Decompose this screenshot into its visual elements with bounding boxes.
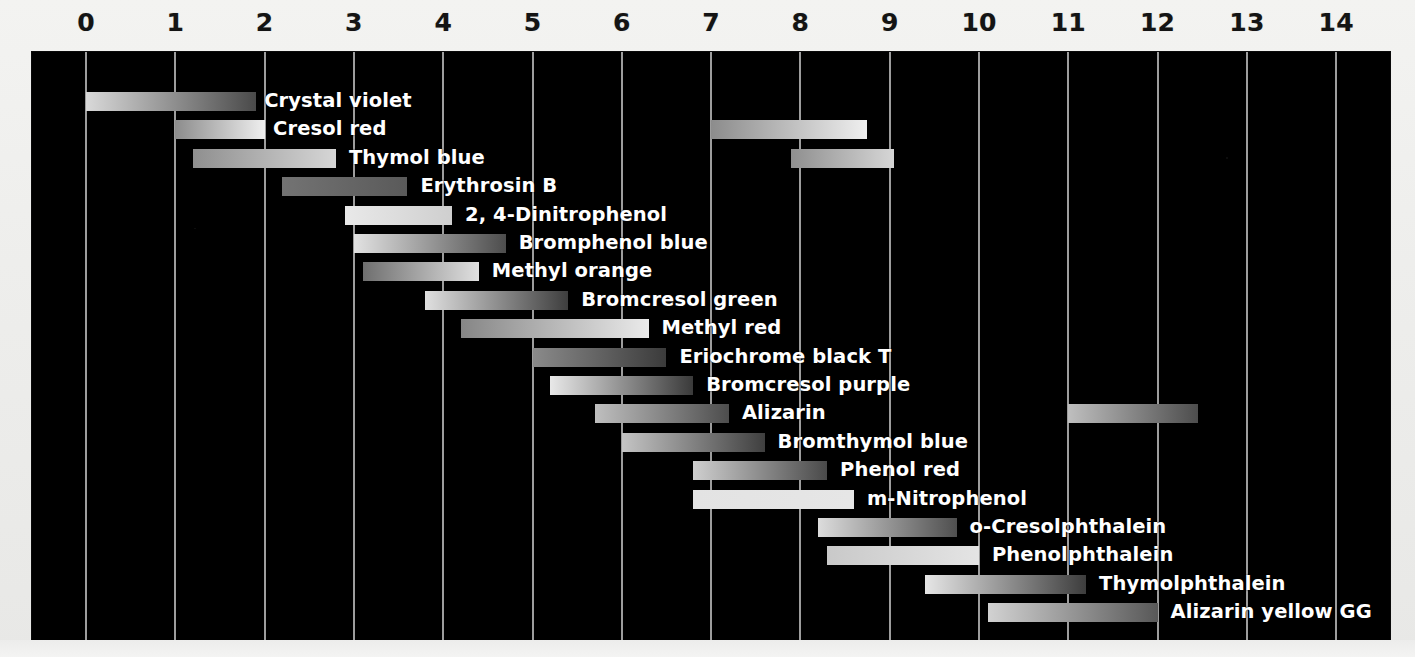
indicator-row[interactable]: Methyl orange	[32, 262, 1390, 290]
x-axis-tick-label: 5	[524, 8, 542, 38]
ph-range-bar[interactable]	[693, 461, 827, 480]
x-axis-tick-strip: 01234567891011121314	[0, 0, 1415, 52]
x-axis-tick-label: 9	[881, 8, 899, 38]
indicator-row[interactable]: Alizarin	[32, 404, 1390, 432]
ph-range-bar[interactable]	[791, 149, 894, 168]
indicator-label: Cresol red	[273, 118, 386, 140]
plot-area: Crystal violetCresol redThymol blueEryth…	[32, 52, 1390, 640]
ph-range-bar[interactable]	[1068, 404, 1197, 423]
indicator-row[interactable]: Bromcresol green	[32, 291, 1390, 319]
indicator-label: Methyl orange	[492, 260, 653, 282]
indicator-label: Thymolphthalein	[1099, 573, 1285, 595]
ph-range-bar[interactable]	[363, 262, 479, 281]
ph-range-bar[interactable]	[693, 490, 854, 509]
ph-range-bar[interactable]	[425, 291, 568, 310]
indicator-label: Bromthymol blue	[778, 431, 969, 453]
indicator-label: Thymol blue	[349, 147, 485, 169]
indicator-row[interactable]: 2, 4-Dinitrophenol	[32, 206, 1390, 234]
x-axis-tick-label: 10	[961, 8, 996, 38]
indicator-row[interactable]: Eriochrome black T	[32, 348, 1390, 376]
indicator-row[interactable]: Thymolphthalein	[32, 575, 1390, 603]
indicator-label: Bromcresol purple	[706, 374, 910, 396]
indicator-label: Methyl red	[662, 317, 782, 339]
ph-range-bar[interactable]	[711, 120, 867, 139]
indicator-label: Crystal violet	[264, 90, 412, 112]
x-axis-tick-label: 3	[345, 8, 363, 38]
indicator-row[interactable]: Bromphenol blue	[32, 234, 1390, 262]
x-axis-tick-label: 8	[792, 8, 810, 38]
x-axis-tick-label: 4	[434, 8, 452, 38]
ph-range-bar[interactable]	[175, 120, 264, 139]
ph-range-bar[interactable]	[354, 234, 506, 253]
x-axis-tick-label: 14	[1319, 8, 1354, 38]
indicator-label: 2, 4-Dinitrophenol	[465, 204, 667, 226]
indicator-row[interactable]: Bromthymol blue	[32, 433, 1390, 461]
indicator-label: Alizarin yellow GG	[1171, 601, 1372, 623]
ph-range-bar[interactable]	[533, 348, 667, 367]
indicator-row[interactable]: Alizarin yellow GG	[32, 603, 1390, 631]
ph-range-bar[interactable]	[550, 376, 693, 395]
indicator-label: Phenol red	[840, 459, 960, 481]
indicator-row[interactable]: Methyl red	[32, 319, 1390, 347]
indicator-row[interactable]: Phenol red	[32, 461, 1390, 489]
indicator-label: Alizarin	[742, 402, 826, 424]
indicator-label: Erythrosin B	[420, 175, 557, 197]
ph-range-bar[interactable]	[818, 518, 956, 537]
indicator-label: Eriochrome black T	[679, 346, 891, 368]
indicator-row[interactable]: Phenolphthalein	[32, 546, 1390, 574]
ph-range-bar[interactable]	[193, 149, 336, 168]
x-axis-tick-label: 7	[702, 8, 720, 38]
ph-range-bar[interactable]	[988, 603, 1158, 622]
ph-range-bar[interactable]	[282, 177, 407, 196]
indicator-label: Bromphenol blue	[519, 232, 708, 254]
x-axis-tick-label: 1	[166, 8, 184, 38]
indicator-row[interactable]: Thymol blue	[32, 149, 1390, 177]
ph-indicator-chart: 01234567891011121314 Crystal violetCreso…	[0, 0, 1415, 657]
x-axis-tick-label: 12	[1140, 8, 1175, 38]
indicator-row[interactable]: Erythrosin B	[32, 177, 1390, 205]
ph-range-bar[interactable]	[345, 206, 452, 225]
ph-range-bar[interactable]	[595, 404, 729, 423]
bottom-margin	[0, 640, 1415, 657]
x-axis-tick-label: 0	[77, 8, 95, 38]
indicator-row[interactable]: Crystal violet	[32, 92, 1390, 120]
indicator-row[interactable]: o-Cresolphthalein	[32, 518, 1390, 546]
indicator-label: o-Cresolphthalein	[970, 516, 1167, 538]
indicator-label: m-Nitrophenol	[867, 488, 1027, 510]
ph-range-bar[interactable]	[925, 575, 1086, 594]
x-axis-tick-label: 11	[1051, 8, 1086, 38]
indicator-row[interactable]: Cresol red	[32, 120, 1390, 148]
x-axis-tick-label: 2	[256, 8, 274, 38]
indicator-label: Phenolphthalein	[992, 544, 1174, 566]
ph-range-bar[interactable]	[827, 546, 979, 565]
ph-range-bar[interactable]	[622, 433, 765, 452]
x-axis-tick-label: 6	[613, 8, 631, 38]
indicator-row[interactable]: Bromcresol purple	[32, 376, 1390, 404]
indicator-label: Bromcresol green	[581, 289, 778, 311]
ph-range-bar[interactable]	[86, 92, 256, 111]
ph-range-bar[interactable]	[461, 319, 649, 338]
indicator-row[interactable]: m-Nitrophenol	[32, 490, 1390, 518]
x-axis-tick-label: 13	[1229, 8, 1264, 38]
